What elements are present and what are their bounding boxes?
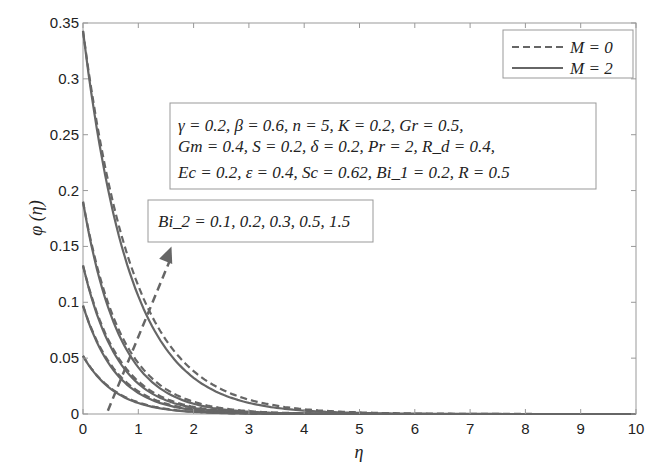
- x-tick-label: 2: [189, 420, 197, 437]
- bi2-annotation-text: Bi_2 = 0.1, 0.2, 0.3, 0.5, 1.5: [158, 212, 350, 231]
- y-tick-label: 0.1: [58, 293, 79, 310]
- x-tick-label: 10: [628, 420, 645, 437]
- y-tick-label: 0.3: [58, 70, 79, 87]
- y-tick-label: 0.15: [50, 237, 79, 254]
- x-tick-label: 6: [411, 420, 419, 437]
- bi2-annotation: Bi_2 = 0.1, 0.2, 0.3, 0.5, 1.5: [148, 200, 373, 242]
- parameter-line-1: γ = 0.2, β = 0.6, n = 5, K = 0.2, Gr = 0…: [178, 116, 464, 135]
- parameter-line-2: Gm = 0.4, S = 0.2, δ = 0.2, Pr = 2, R_d …: [178, 137, 495, 156]
- x-tick-label: 9: [577, 420, 585, 437]
- y-tick-label: 0.35: [50, 14, 79, 31]
- curve-dashed: [83, 306, 636, 414]
- legend-label-m0: M = 0: [569, 38, 613, 57]
- parameter-line-3: Ec = 0.2, ε = 0.4, Sc = 0.62, Bi_1 = 0.2…: [177, 163, 510, 182]
- y-axis-title: φ (η): [26, 200, 47, 235]
- y-tick-label: 0.2: [58, 182, 79, 199]
- x-tick-label: 4: [300, 420, 308, 437]
- arrow-head-icon: [159, 246, 172, 263]
- y-tick-label: 0: [71, 405, 79, 422]
- legend: M = 0 M = 2: [503, 30, 633, 78]
- curve-solid: [83, 306, 636, 414]
- y-tick-label: 0.25: [50, 126, 79, 143]
- y-tick-label: 0.05: [50, 349, 79, 366]
- x-tick-label: 5: [355, 420, 363, 437]
- x-tick-label: 1: [134, 420, 142, 437]
- legend-label-m2: M = 2: [569, 59, 613, 78]
- chart: 01234567891000.050.10.150.20.250.30.35 η…: [0, 0, 653, 476]
- x-tick-label: 7: [466, 420, 474, 437]
- x-axis-title: η: [355, 442, 364, 462]
- x-tick-label: 3: [245, 420, 253, 437]
- x-tick-label: 0: [79, 420, 87, 437]
- parameter-box: γ = 0.2, β = 0.6, n = 5, K = 0.2, Gr = 0…: [170, 103, 596, 189]
- x-tick-label: 8: [521, 420, 529, 437]
